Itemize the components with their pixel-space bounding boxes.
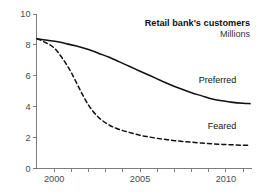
series-label-preferred: Preferred (199, 75, 237, 85)
y-axis-tick-labels: 0246810 (20, 9, 30, 174)
chart-container: 0246810 200020052010 Retail bank's custo… (0, 0, 259, 195)
y-tick-label: 4 (25, 102, 30, 112)
x-tick-label: 2010 (216, 174, 236, 184)
y-tick-label: 6 (25, 71, 30, 81)
x-tick-label: 2005 (130, 174, 150, 184)
line-chart: 0246810 200020052010 Retail bank's custo… (0, 0, 259, 195)
chart-title: Retail bank's customers (145, 18, 250, 28)
x-tick-label: 2000 (44, 174, 64, 184)
chart-subtitle: Millions (220, 29, 251, 39)
y-tick-label: 10 (20, 9, 30, 19)
y-tick-label: 8 (25, 40, 30, 50)
x-axis-ticks (54, 169, 243, 172)
series-line-preferred (37, 39, 250, 104)
y-tick-label: 2 (25, 133, 30, 143)
series-label-feared: Feared (208, 121, 237, 131)
x-axis-tick-labels: 200020052010 (44, 174, 236, 184)
y-tick-label: 0 (25, 164, 30, 174)
series-inline-labels: PreferredFeared (199, 75, 237, 131)
y-axis-ticks (33, 14, 36, 169)
